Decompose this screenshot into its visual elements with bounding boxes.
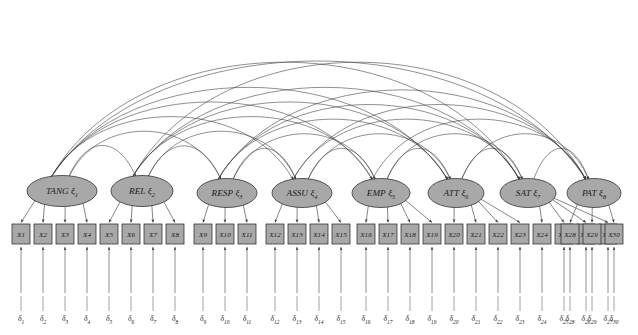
indicator-node: X22 bbox=[489, 224, 507, 244]
indicator-node: X17 bbox=[379, 224, 397, 244]
error-label: δ20 bbox=[450, 314, 459, 325]
error-label: δ3 bbox=[62, 314, 69, 325]
error-label: δ14 bbox=[315, 314, 324, 325]
indicator-label: X30 bbox=[607, 231, 620, 239]
error-label: δ17 bbox=[384, 314, 393, 325]
indicator-label: X20 bbox=[447, 231, 460, 239]
latent-factor-node: TANGξ1 bbox=[27, 176, 97, 207]
loading-arrow bbox=[549, 202, 564, 223]
error-label: δ13 bbox=[293, 314, 302, 325]
loading-arrow bbox=[164, 201, 175, 222]
error-label: δ10 bbox=[221, 314, 230, 325]
loading-arrow bbox=[401, 203, 410, 223]
loading-arrow bbox=[540, 206, 542, 223]
indicator-node: X3 bbox=[56, 224, 74, 244]
covariance-arc bbox=[308, 148, 375, 179]
loading-arrow bbox=[609, 205, 614, 223]
indicator-node: X8 bbox=[166, 224, 184, 244]
error-label: δ19 bbox=[428, 314, 437, 325]
indicator-node: X11 bbox=[238, 224, 256, 244]
covariance-arc bbox=[69, 131, 221, 179]
error-label: δ7 bbox=[150, 314, 157, 325]
error-label: δ6 bbox=[128, 314, 135, 325]
error-label: δ15 bbox=[337, 314, 346, 325]
latent-factor-node: EMPξ5 bbox=[352, 179, 410, 208]
covariance-arc bbox=[387, 148, 451, 179]
indicator-node: X13 bbox=[288, 224, 306, 244]
indicator-node: X12 bbox=[266, 224, 284, 244]
indicator-label: X5 bbox=[104, 231, 113, 239]
indicator-label: X19 bbox=[425, 231, 438, 239]
indicator-node: X9 bbox=[194, 224, 212, 244]
loading-arrow bbox=[471, 205, 476, 223]
error-label: δ2 bbox=[40, 314, 47, 325]
error-term-labels: δ1δ2δ3δ4δ5δ6δ7δ8δ9δ10δ11δ12δ13δ14δ15δ16δ… bbox=[18, 314, 619, 325]
loading-arrow bbox=[316, 205, 319, 222]
error-label: δ18 bbox=[406, 314, 415, 325]
indicator-node: X23 bbox=[511, 224, 529, 244]
loading-arrow bbox=[21, 200, 35, 222]
latent-factor-node: ATTξ6 bbox=[428, 179, 484, 208]
indicator-label: X12 bbox=[268, 231, 281, 239]
loading-arrow bbox=[83, 203, 87, 223]
loading-arrow bbox=[152, 205, 153, 222]
path-diagram-canvas: X1X2X3X4X5X6X7X8X9X10X11X12X13X14X15X16X… bbox=[0, 0, 638, 335]
indicator-node: X15 bbox=[332, 224, 350, 244]
covariance-arc bbox=[218, 90, 586, 180]
indicator-label: X28 bbox=[563, 231, 576, 239]
indicator-label: X18 bbox=[403, 231, 416, 239]
error-label: δ8 bbox=[172, 314, 179, 325]
covariance-arc bbox=[372, 119, 586, 179]
indicator-node: X21 bbox=[467, 224, 485, 244]
latent-factor-node: SATξ7 bbox=[500, 179, 556, 208]
error-label: δ11 bbox=[243, 314, 252, 325]
indicator-label: X24 bbox=[535, 231, 548, 239]
indicator-label: X7 bbox=[148, 231, 157, 239]
indicator-node: X1 bbox=[12, 224, 30, 244]
covariance-arc bbox=[293, 105, 586, 180]
loading-arrow bbox=[325, 201, 341, 222]
indicator-node: X5 bbox=[100, 224, 118, 244]
loading-arrow bbox=[203, 204, 209, 223]
indicator-label: X10 bbox=[218, 231, 231, 239]
indicator-node: X4 bbox=[78, 224, 96, 244]
latent-factor-node: RELξ2 bbox=[111, 176, 173, 207]
error-label: δ4 bbox=[84, 314, 91, 325]
loading-arrow bbox=[275, 203, 283, 222]
loading-arrow bbox=[109, 201, 120, 222]
covariance-arc bbox=[387, 134, 523, 180]
indicator-node: X6 bbox=[122, 224, 140, 244]
loading-arrow bbox=[405, 200, 432, 223]
latent-factor-node: ASSUξ4 bbox=[272, 179, 332, 208]
error-label: δ24 bbox=[538, 314, 547, 325]
factor-covariance-arcs bbox=[52, 61, 589, 179]
indicator-label: X2 bbox=[38, 231, 47, 239]
indicator-label: X22 bbox=[491, 231, 504, 239]
indicator-label: X17 bbox=[381, 231, 394, 239]
loading-arrow bbox=[570, 204, 578, 223]
indicator-label: X11 bbox=[241, 231, 253, 239]
loading-arrow bbox=[478, 201, 498, 223]
indicator-label: X6 bbox=[126, 231, 135, 239]
covariance-arc bbox=[148, 146, 221, 180]
indicator-label: X14 bbox=[312, 231, 325, 239]
error-label: δ1 bbox=[18, 314, 25, 325]
indicator-label: X9 bbox=[198, 231, 207, 239]
indicator-node: X18 bbox=[401, 224, 419, 244]
indicator-node: X2 bbox=[34, 224, 52, 244]
path-diagram-svg: X1X2X3X4X5X6X7X8X9X10X11X12X13X14X15X16X… bbox=[0, 0, 638, 335]
indicator-label: X23 bbox=[513, 231, 526, 239]
covariance-arc bbox=[133, 87, 520, 179]
indicator-label: X16 bbox=[359, 231, 372, 239]
error-label: δ23 bbox=[516, 314, 525, 325]
error-label: δ22 bbox=[494, 314, 503, 325]
latent-factor-node: PATξ8 bbox=[567, 179, 621, 208]
loading-arrow bbox=[43, 204, 45, 223]
indicator-node: X16 bbox=[357, 224, 375, 244]
indicator-label: X4 bbox=[82, 231, 91, 239]
loading-arrow bbox=[366, 205, 368, 222]
error-label: δ16 bbox=[362, 314, 371, 325]
indicator-node: X7 bbox=[144, 224, 162, 244]
loading-arrow bbox=[243, 205, 247, 223]
indicator-node: X19 bbox=[423, 224, 441, 244]
